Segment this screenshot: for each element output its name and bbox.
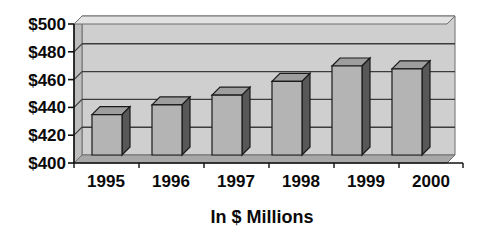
bar-1998-front	[272, 81, 302, 155]
y-tick-label-420: $420	[28, 126, 66, 145]
left-side-wall	[74, 16, 82, 163]
chart-canvas: $500 $480 $460 $440 $420 $400 1995 1996 …	[0, 0, 479, 249]
y-tick-label-500: $500	[28, 15, 66, 34]
bar-1997	[212, 87, 250, 155]
bar-1998	[272, 73, 310, 155]
floor	[74, 155, 455, 163]
x-tick-label-1998: 1998	[282, 172, 320, 191]
bar-1999	[332, 58, 370, 155]
bar-1996-side	[182, 97, 190, 155]
bar-1997-front	[212, 95, 242, 155]
bar-2000	[392, 61, 430, 155]
bar-1999-side	[362, 58, 370, 155]
y-tick-label-440: $440	[28, 98, 66, 117]
y-axis-tick-labels: $500 $480 $460 $440 $420 $400	[28, 15, 66, 173]
bar-1995	[92, 107, 130, 155]
bar-2000-front	[392, 69, 422, 155]
bar-2000-side	[422, 61, 430, 155]
y-tick-label-460: $460	[28, 71, 66, 90]
x-axis-title: In $ Millions	[210, 207, 313, 227]
bar-1996	[152, 97, 190, 155]
x-tick-label-1999: 1999	[347, 172, 385, 191]
bar-1995-front	[92, 115, 122, 155]
bar-1999-front	[332, 66, 362, 155]
bar-1995-side	[122, 107, 130, 155]
x-tick-label-1997: 1997	[217, 172, 255, 191]
x-tick-label-1996: 1996	[152, 172, 190, 191]
x-tick-label-1995: 1995	[87, 172, 125, 191]
x-tick-label-2000: 2000	[412, 172, 450, 191]
x-axis-tick-labels: 1995 1996 1997 1998 1999 2000	[87, 172, 450, 191]
y-tick-label-480: $480	[28, 43, 66, 62]
bar-1996-front	[152, 105, 182, 155]
back-wall-top-ledge	[74, 16, 455, 24]
bar-chart: $500 $480 $460 $440 $420 $400 1995 1996 …	[0, 0, 479, 249]
bar-1997-side	[242, 87, 250, 155]
bar-1998-side	[302, 73, 310, 155]
y-tick-label-400: $400	[28, 154, 66, 173]
